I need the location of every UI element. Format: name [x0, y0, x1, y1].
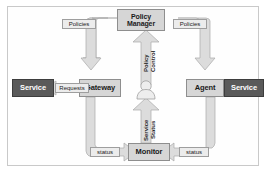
node-monitor[interactable]: Monitor [128, 143, 170, 161]
diagram-figure: .band { fill:#dcdcdc; stroke:#a9a9a9; st… [0, 0, 267, 174]
label-policy-control-line1: Policy [143, 54, 149, 72]
label-service-status-line2: Status [150, 121, 156, 139]
label-policies-left: Policies [62, 19, 96, 29]
policy-manager-line1: Policy [131, 13, 151, 20]
label-status-right: status [179, 147, 209, 157]
label-status-left: status [90, 147, 120, 157]
policy-manager-line2: Manager [127, 20, 155, 27]
label-service-status-line1: Service [143, 120, 149, 141]
node-policy-manager[interactable]: Policy Manager [117, 9, 165, 31]
label-policy-control-line2: Control [150, 51, 156, 72]
user-figure-icon [137, 81, 155, 99]
label-policies-right: Policies [173, 19, 207, 29]
node-agent[interactable]: Agent [186, 79, 224, 97]
node-service-right[interactable]: Service [224, 79, 264, 97]
label-requests: Requests [55, 83, 89, 93]
node-service-left[interactable]: Service [12, 79, 54, 97]
